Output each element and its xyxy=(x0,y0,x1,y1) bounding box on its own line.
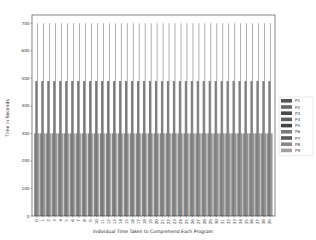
bar xyxy=(262,133,263,216)
legend-swatch xyxy=(281,105,292,109)
bar xyxy=(40,133,41,216)
bar xyxy=(220,133,221,216)
bar xyxy=(202,133,203,216)
bar xyxy=(244,133,245,216)
bar xyxy=(70,133,71,216)
bar xyxy=(200,133,201,216)
y-tick-label: 0 xyxy=(27,214,30,219)
bar xyxy=(35,81,36,216)
x-tick-label: 17 xyxy=(136,219,141,225)
bar xyxy=(41,81,42,216)
bar xyxy=(271,133,272,216)
x-tick-label: 33 xyxy=(232,219,237,225)
bar xyxy=(223,133,224,216)
bar xyxy=(119,81,120,216)
bar xyxy=(184,133,185,216)
bar xyxy=(254,133,255,216)
bar xyxy=(145,133,146,216)
bar xyxy=(109,23,110,216)
bar xyxy=(202,133,203,216)
bar xyxy=(272,133,273,216)
bar xyxy=(153,133,154,216)
bar-group xyxy=(70,23,75,216)
bar-group xyxy=(46,23,51,216)
bar xyxy=(136,133,137,216)
legend-swatch xyxy=(281,118,292,122)
bar xyxy=(88,133,89,216)
bar xyxy=(263,81,264,216)
bar xyxy=(44,133,45,216)
bar xyxy=(77,81,78,216)
bar xyxy=(223,23,224,216)
bar xyxy=(171,133,172,216)
bar xyxy=(66,81,67,216)
bar xyxy=(182,133,183,216)
bar xyxy=(217,133,218,216)
bar-group xyxy=(267,23,272,216)
bar xyxy=(156,81,157,216)
bar xyxy=(113,133,114,216)
bar xyxy=(83,81,84,216)
bar xyxy=(176,133,177,216)
bar xyxy=(59,81,60,216)
bar xyxy=(42,81,43,216)
bar xyxy=(226,133,227,216)
x-tick-label: 0 xyxy=(34,219,39,222)
bar-group xyxy=(154,23,159,216)
bar xyxy=(90,81,91,216)
bar xyxy=(250,133,251,216)
bar xyxy=(227,81,228,216)
bar xyxy=(74,133,75,216)
bar xyxy=(102,81,103,216)
bar xyxy=(106,133,107,216)
bar xyxy=(269,81,270,216)
bar xyxy=(149,81,150,216)
bar xyxy=(260,133,261,216)
bar xyxy=(61,23,62,216)
bar xyxy=(131,81,132,216)
bar xyxy=(204,81,205,216)
bar xyxy=(235,133,236,216)
bar xyxy=(234,81,235,216)
legend: P1P2P3P4P5P6P7P8P9 xyxy=(279,97,313,156)
bar xyxy=(192,81,193,216)
bar xyxy=(108,81,109,216)
x-tick-label: 39 xyxy=(267,219,272,225)
bar-group xyxy=(202,23,207,216)
bar xyxy=(62,133,63,216)
bar xyxy=(128,133,129,216)
bar-group xyxy=(196,23,201,216)
bar xyxy=(116,133,117,216)
bar xyxy=(82,133,83,216)
bar xyxy=(124,133,125,216)
bar xyxy=(78,81,79,216)
bar-group xyxy=(160,23,165,216)
bar xyxy=(60,81,61,216)
bar xyxy=(38,133,39,216)
bar xyxy=(47,133,48,216)
x-tick-label: 25 xyxy=(184,219,189,225)
bar xyxy=(145,23,146,216)
y-tick-label: 100 xyxy=(22,186,30,191)
bar-group xyxy=(190,23,195,216)
bar xyxy=(259,133,260,216)
bar xyxy=(188,133,189,216)
bar xyxy=(218,133,219,216)
bar xyxy=(139,133,140,216)
bar xyxy=(56,133,57,216)
bar-group xyxy=(94,23,99,216)
bar xyxy=(166,133,167,216)
bar xyxy=(98,133,99,216)
bar xyxy=(68,133,69,216)
bar xyxy=(209,81,210,216)
bar xyxy=(203,81,204,216)
bar xyxy=(236,133,237,216)
bar xyxy=(38,133,39,216)
bar xyxy=(150,81,151,216)
bar xyxy=(121,23,122,216)
bar xyxy=(252,81,253,216)
x-tick-label: 13 xyxy=(112,219,117,225)
bar xyxy=(246,23,247,216)
bar xyxy=(84,81,85,216)
bar xyxy=(269,81,270,216)
